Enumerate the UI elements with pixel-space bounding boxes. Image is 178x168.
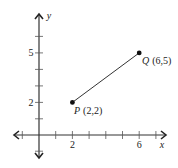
point-p-label: P(2,2) — [73, 105, 102, 117]
x-tick-label-2: 2 — [70, 139, 75, 150]
point-q-dot — [137, 51, 142, 56]
x-tick-label-6: 6 — [137, 139, 142, 150]
y-axis-label: y — [46, 10, 52, 21]
y-tick-label-2: 2 — [29, 97, 34, 108]
coordinate-plane-figure: 2 6 x 5 2 y P(2,2) Q(6,5) — [0, 0, 178, 168]
segment-pq — [72, 53, 139, 103]
y-axis: 5 2 y — [29, 10, 52, 158]
point-p: P(2,2) — [70, 100, 102, 117]
point-q: Q(6,5) — [137, 51, 172, 68]
x-axis: 2 6 x — [14, 131, 166, 150]
x-axis-label: x — [159, 139, 165, 150]
y-tick-label-5: 5 — [29, 47, 34, 58]
point-q-label: Q(6,5) — [142, 55, 171, 67]
